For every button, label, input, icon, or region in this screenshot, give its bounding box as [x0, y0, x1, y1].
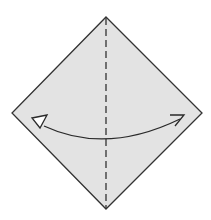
paper-square: [12, 17, 202, 209]
diagram-canvas: [0, 0, 211, 220]
origami-diagram: [0, 0, 211, 220]
